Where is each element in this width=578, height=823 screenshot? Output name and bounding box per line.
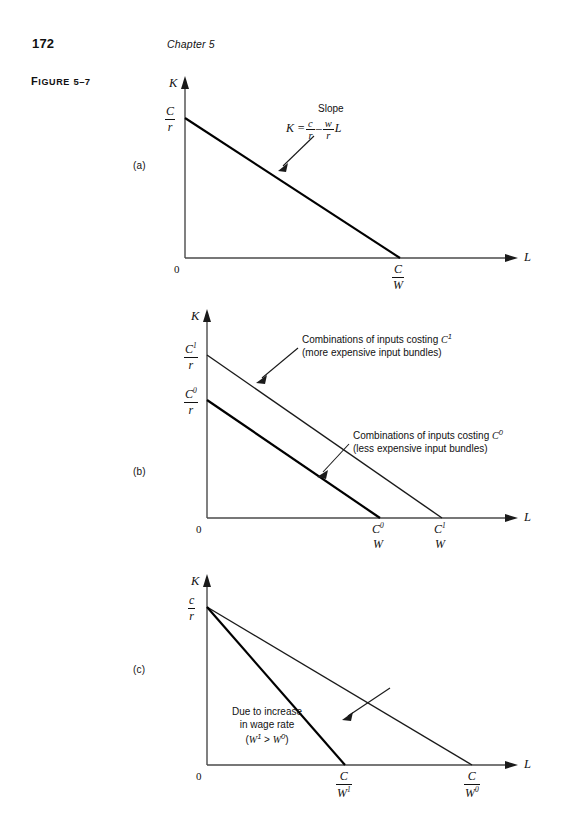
panel-b-c1-arrowhead xyxy=(256,375,267,384)
panel-c-y-axis-label: K xyxy=(191,575,199,588)
panel-a-graphic xyxy=(0,0,578,290)
panel-b-high-cost-callout: Combinations of inputs costing C1 (more … xyxy=(302,331,452,359)
panel-b-y-intercept-c1-numerator: C1 xyxy=(184,342,198,358)
panel-b-low-cost-exponent: 0 xyxy=(499,428,503,437)
panel-c-x-intercept-label-w1: C W1 xyxy=(336,770,352,799)
panel-b-low-cost-line2: (less expensive input bundles) xyxy=(353,443,503,456)
panel-c-y-intercept-denominator: r xyxy=(188,609,195,623)
panel-c-y-intercept-label: c r xyxy=(188,594,195,622)
panel-b-x-intercept-c0-numerator: C0 xyxy=(371,522,385,536)
panel-b-x-intercept-c1-denominator: W xyxy=(433,536,447,551)
panel-c-graphic xyxy=(0,560,578,823)
panel-b-y-intercept-c0-numerator: C0 xyxy=(184,387,198,403)
panel-b-y-axis-label: K xyxy=(191,310,199,323)
panel-c-x-intercept-w0-exponent: 0 xyxy=(475,785,479,794)
panel-b-y-intercept-c1-denominator: r xyxy=(184,358,198,372)
equation-trailing-variable: L xyxy=(335,121,342,135)
panel-b-low-cost-callout: Combinations of inputs costing C0 (less … xyxy=(353,427,503,455)
panel-b-y-intercept-c1-exponent: 1 xyxy=(193,341,197,350)
panel-a-x-intercept-numerator: C xyxy=(392,263,404,278)
equation-term1-fraction: cr xyxy=(306,118,315,141)
panel-a-y-axis-arrow xyxy=(181,76,189,89)
panel-b-x-axis-arrow xyxy=(505,514,518,522)
panel-c-x-intercept-w1-numerator: C xyxy=(336,770,352,785)
panel-c-x-intercept-w1-exponent: 1 xyxy=(347,785,351,794)
panel-a-y-intercept-numerator: C xyxy=(165,105,175,120)
equation-term2-denominator: r xyxy=(323,130,334,141)
panel-a-y-intercept-label: C r xyxy=(165,105,175,133)
equation-term2-numerator: w xyxy=(323,118,334,130)
panel-b-low-cost-symbol: C xyxy=(492,430,499,441)
figure-page: 172 Chapter 5 FIGURE 5–7 (a) K L 0 xyxy=(0,0,578,823)
panel-a-x-axis-label: L xyxy=(524,251,531,264)
equation-term2-fraction: wr xyxy=(323,118,334,141)
panel-b-origin-label: 0 xyxy=(196,524,202,535)
panel-a-origin-label: 0 xyxy=(174,264,180,275)
panel-c-x-intercept-w0-numerator: C xyxy=(464,770,480,785)
panel-b-x-intercept-label-c0: C0 W xyxy=(371,522,385,550)
panel-c-wage-increase-callout: Due to increase in wage rate (W1 > W0) xyxy=(216,706,318,747)
panel-c-wage-line3: (W1 > W0) xyxy=(216,731,318,747)
panel-a-y-intercept-denominator: r xyxy=(165,120,175,134)
panel-b-y-intercept-label-c1: C1 r xyxy=(184,342,198,371)
panel-b-x-intercept-c1-exponent: 1 xyxy=(442,521,446,530)
panel-b-isocost-line-c0 xyxy=(207,400,380,518)
panel-b-low-cost-line1: Combinations of inputs costing C0 xyxy=(353,427,503,443)
panel-c-origin-label: 0 xyxy=(196,771,202,782)
equation-term1-numerator: c xyxy=(306,118,315,130)
panel-b-y-intercept-label-c0: C0 r xyxy=(184,387,198,416)
panel-b-y-intercept-c0-exponent: 0 xyxy=(193,386,197,395)
panel-a-isocost-equation: K =cr–wrL xyxy=(286,118,341,141)
panel-a-x-axis-arrow xyxy=(505,254,518,262)
panel-c-callout-arrowhead xyxy=(342,712,353,721)
panel-b-high-cost-line2: (more expensive input bundles) xyxy=(302,347,452,360)
panel-b-high-cost-exponent: 1 xyxy=(448,332,452,341)
panel-a-x-intercept-label: C W xyxy=(392,263,404,291)
panel-c: (c) K L 0 c r C W1 xyxy=(0,560,578,823)
panel-b-x-intercept-label-c1: C1 W xyxy=(433,522,447,550)
panel-b-x-intercept-c1-numerator: C1 xyxy=(433,522,447,536)
panel-c-wage-symbol-1: W xyxy=(249,734,257,745)
panel-b-x-axis-label: L xyxy=(524,511,531,524)
panel-c-x-intercept-w0-denominator: W0 xyxy=(464,785,480,800)
equation-minus-sign: – xyxy=(316,121,322,135)
panel-c-wage-line1: Due to increase xyxy=(216,706,318,719)
panel-b-graphic xyxy=(0,290,578,560)
panel-b-x-intercept-c0-exponent: 0 xyxy=(380,521,384,530)
panel-b-high-cost-line1: Combinations of inputs costing C1 xyxy=(302,331,452,347)
panel-b-c0-leader xyxy=(323,444,349,472)
equation-term1-denominator: r xyxy=(306,130,315,141)
panel-b-high-cost-symbol: C xyxy=(441,334,448,345)
panel-b-c0-arrowhead xyxy=(317,470,328,479)
panel-a-annotation-arrowhead xyxy=(278,163,288,172)
panel-c-x-axis-arrow xyxy=(505,761,518,769)
panel-c-y-intercept-numerator: c xyxy=(188,594,195,609)
panel-b-c1-leader xyxy=(262,348,298,378)
panel-c-wage-symbol-0: W xyxy=(273,734,281,745)
panel-c-y-axis-arrow xyxy=(203,574,211,587)
panel-b-x-intercept-c0-denominator: W xyxy=(371,536,385,551)
panel-c-x-intercept-label-w0: C W0 xyxy=(464,770,480,799)
panel-c-x-intercept-w1-denominator: W1 xyxy=(336,785,352,800)
panel-c-wage-line2: in wage rate xyxy=(216,719,318,732)
panel-c-x-axis-label: L xyxy=(524,758,531,771)
panel-b-y-axis-arrow xyxy=(203,309,211,322)
panel-b-y-intercept-c0-denominator: r xyxy=(184,403,198,417)
panel-a-slope-label: Slope xyxy=(318,104,344,114)
equation-lhs: K = xyxy=(286,121,305,135)
panel-a: (a) K L 0 C r C W xyxy=(0,0,578,290)
panel-a-y-axis-label: K xyxy=(169,77,177,90)
panel-b: (b) K L 0 C1 r C0 xyxy=(0,290,578,560)
